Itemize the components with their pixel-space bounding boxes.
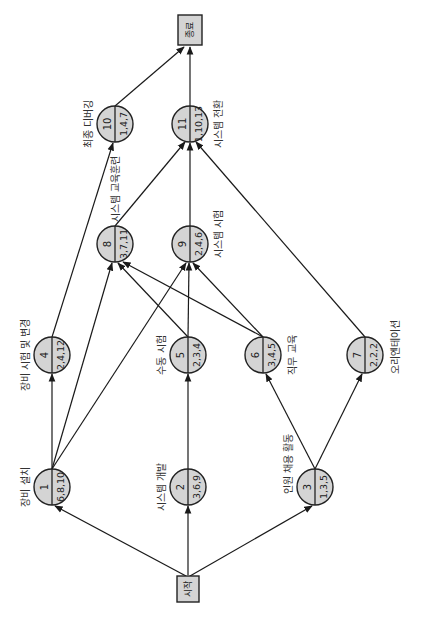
edge-6-9 [193,263,263,337]
start-label: 시작 [183,581,193,597]
node-estimate: 3,4,5 [266,343,277,367]
node-label: 장비 설치 [20,467,31,506]
node-label: 수동 시험 [156,335,167,374]
node-estimate: 2,4,12 [55,340,66,370]
node-number: 9 [177,241,188,247]
node-number: 5 [175,352,186,358]
node-estimate: 1,10,13 [193,106,204,142]
node-number: 1 [39,484,50,490]
node-label: 장비 시험 및 변경 [19,319,31,392]
activity-node-7: 7 2,2,2 오리엔테이션 [347,320,401,374]
edge-6-8 [123,262,263,337]
node-estimate: 3,6,9 [191,475,202,499]
node-estimate: 6,8,10 [55,472,66,502]
end-node: 종료 [178,15,202,45]
node-label: 인원 채용 활동 [282,434,294,494]
start-node: 시작 [177,576,199,602]
edge-5-8 [118,263,188,337]
node-number: 6 [250,352,261,358]
activity-node-5: 5 2,3,4 수동 시험 [156,335,207,374]
node-number: 11 [177,118,188,131]
activity-node-4: 4 2,4,12 장비 시험 및 변경 [19,319,71,392]
node-estimate: 1,3,5 [318,475,329,499]
activity-node-3: 3 1,3,5 인원 채용 활동 [282,434,334,505]
activity-node-10: 10 1,4,7 최종 디버깅 [83,100,134,148]
node-number: 8 [102,241,113,247]
activity-node-6: 6 3,4,5 직무 교육 [245,335,298,374]
node-number: 10 [102,118,113,131]
edge-start-1 [55,506,186,576]
network-diagram: 시작 종료 1 6,8,10 장비 설치 2 3,6,9 시스템 개발 3 1,… [0,0,427,620]
activity-node-1: 1 6,8,10 장비 설치 [20,467,71,506]
node-estimate: 2,2,2 [368,343,379,367]
edge-3-7 [315,374,362,469]
node-label: 오리엔테이션 [390,320,401,374]
node-estimate: 1,4,7 [118,112,129,136]
node-number: 3 [302,484,313,490]
node-label: 최종 디버깅 [83,100,94,148]
activity-node-11: 11 1,10,13 시스템 전환 [172,100,224,148]
node-estimate: 3,7,11 [118,229,129,259]
node-estimate: 2,4,6 [193,232,204,256]
node-number: 7 [352,352,363,358]
node-estimate: 2,3,4 [191,343,202,367]
node-label: 시스템 전환 [213,100,224,148]
node-label: 시스템 시험 [213,210,224,258]
node-label: 시스템 교육훈련 [109,156,121,222]
node-number: 4 [39,352,50,358]
activity-node-8: 8 3,7,11 시스템 교육훈련 [97,156,133,262]
edge-5-9 [188,263,189,337]
node-number: 2 [175,484,186,490]
edge-8-11 [115,142,185,226]
node-label: 직무 교육 [287,335,298,374]
end-label: 종료 [185,22,195,38]
activity-node-2: 2 3,6,9 시스템 개발 [156,463,207,511]
node-label: 시스템 개발 [156,463,167,511]
edge-start-3 [190,506,312,576]
edge-10-end [115,47,184,106]
activity-node-9: 9 2,4,6 시스템 시험 [172,210,224,262]
